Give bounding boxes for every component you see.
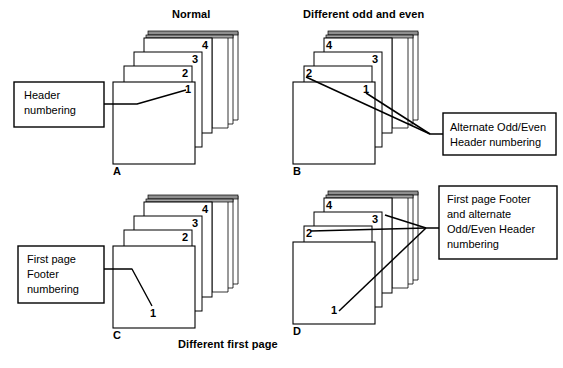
d-callout-line-2: and alternate [447,207,535,222]
c-page-number-4: 4 [202,203,208,215]
b-callout-line-2: Header numbering [450,135,546,150]
d-page-number-1: 1 [331,304,337,316]
a-callout-line-2: numbering [24,103,76,118]
d-callout-line-1: First page Footer [447,192,535,207]
d-callout-line-3: Odd/Even Header [447,222,535,237]
diagram-svg [0,0,563,368]
quadrant-d-stack [293,191,439,324]
quadrant-b-stack [293,31,443,164]
b-callout-line-1: Alternate Odd/Even [450,120,546,135]
a-quadrant-letter: A [113,165,121,177]
d-page-number-4: 4 [326,199,332,211]
d-quadrant-letter: D [293,325,301,337]
b-page-number-4: 4 [326,39,332,51]
a-callout-text: Header numbering [24,88,76,118]
b-page-number-1: 1 [363,83,369,95]
a-callout-line-1: Header [24,88,76,103]
c-callout-line-3: numbering [27,282,79,297]
b-callout-text: Alternate Odd/Even Header numbering [450,120,546,150]
c-page-number-1: 1 [150,307,156,319]
heading-normal: Normal [172,8,211,20]
b-page-number-2: 2 [306,67,312,79]
c-page-number-2: 2 [182,231,188,243]
c-callout-text: First page Footer numbering [27,252,79,297]
c-callout-line-2: Footer [27,267,79,282]
d-page-number-3: 3 [372,213,378,225]
a-page-number-4: 4 [202,39,208,51]
c-callout-line-1: First page [27,252,79,267]
b-page-number-3: 3 [372,53,378,65]
quadrant-a-stack [104,31,238,164]
quadrant-c-stack [104,195,238,328]
caption-different-first-page: Different first page [178,338,278,350]
c-page-number-3: 3 [192,217,198,229]
c-quadrant-letter: C [113,329,121,341]
b-quadrant-letter: B [293,165,301,177]
d-callout-text: First page Footer and alternate Odd/Even… [447,192,535,252]
a-page-1 [113,82,195,164]
d-page-number-2: 2 [306,227,312,239]
a-page-number-3: 3 [192,53,198,65]
diagram-canvas: Normal Different odd and even Different … [0,0,563,368]
d-callout-line-4: numbering [447,237,535,252]
a-page-number-2: 2 [182,67,188,79]
a-page-number-1: 1 [185,83,191,95]
heading-different-odd-even: Different odd and even [303,8,424,20]
